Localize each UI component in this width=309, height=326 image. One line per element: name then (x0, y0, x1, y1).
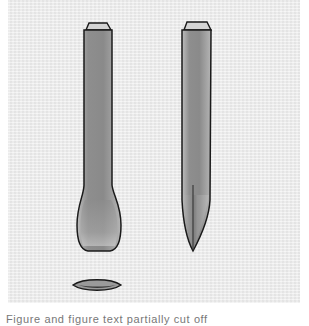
figure-caption: Figure and figure text partially cut off (6, 312, 306, 326)
rounded-end-tool (77, 23, 121, 251)
cross-section (73, 280, 121, 291)
pointed-end-tool (182, 22, 211, 251)
